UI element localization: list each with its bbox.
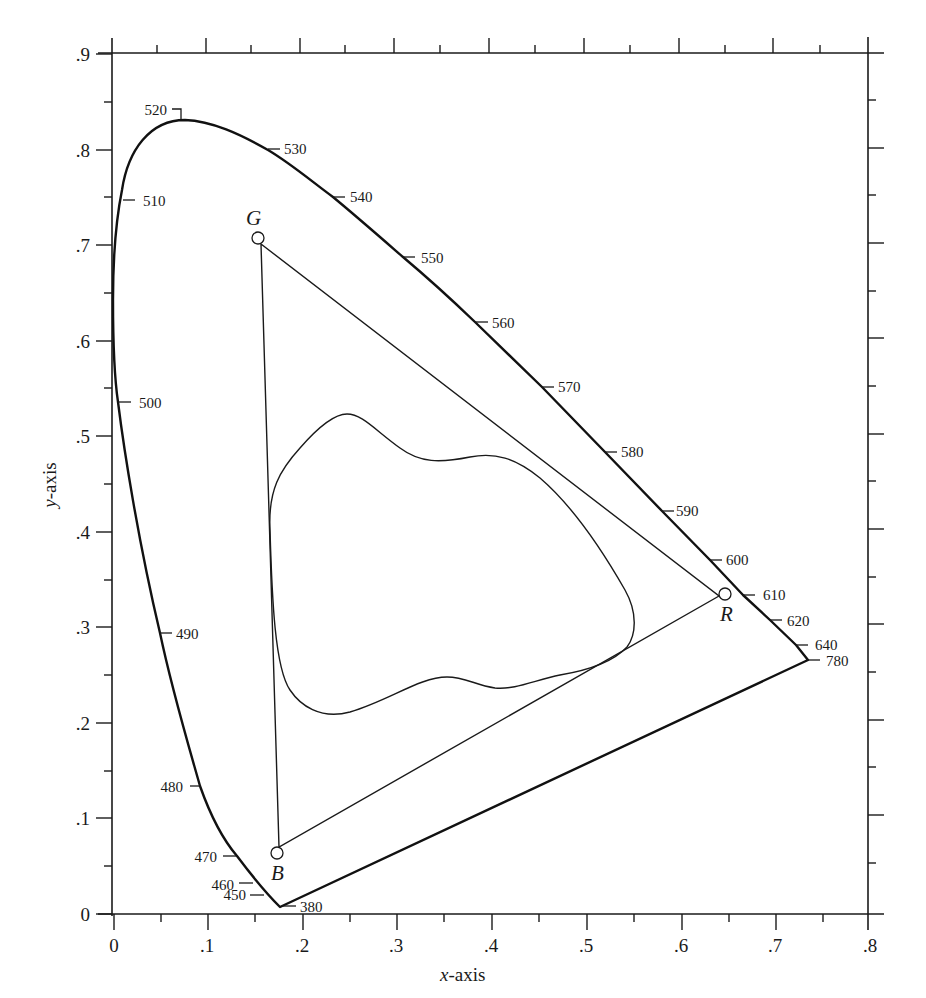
wavelength-markers: 380 450 460 470 480 490 500 510 520 530 …	[118, 102, 849, 915]
wavelength-label: 470	[195, 849, 218, 865]
chromaticity-diagram: 0 .1 .2 .3 .4 .5 .6 .7 .8 0 .1 .2 .3 .4 …	[0, 0, 926, 998]
y-tick-label: 0	[81, 904, 91, 925]
wavelength-label: 590	[676, 503, 699, 519]
x-tick-label: 0	[109, 935, 119, 956]
y-axis-ticks	[96, 54, 112, 914]
y-tick-label: .6	[76, 331, 90, 352]
wavelength-label: 550	[421, 250, 444, 266]
wavelength-label: 620	[787, 613, 810, 629]
wavelength-label: 570	[558, 379, 581, 395]
green-primary-marker	[252, 232, 264, 244]
wavelength-label: 580	[621, 444, 644, 460]
x-tick-labels: 0 .1 .2 .3 .4 .5 .6 .7 .8	[109, 935, 877, 956]
wavelength-label: 520	[145, 102, 168, 118]
x-tick-label: .5	[579, 935, 593, 956]
green-primary-label: G	[246, 206, 261, 230]
y-tick-label: .7	[76, 235, 90, 256]
x-tick-label: .4	[484, 935, 499, 956]
wavelength-label: 500	[139, 395, 162, 411]
y-tick-label: .8	[76, 140, 90, 161]
red-primary-label: R	[719, 602, 733, 626]
x-tick-label: .2	[295, 935, 309, 956]
vertex-b: B	[271, 847, 284, 885]
rgb-gamut-triangle	[261, 244, 719, 847]
x-tick-label: .8	[863, 935, 877, 956]
blue-primary-marker	[271, 847, 283, 859]
x-tick-label: .6	[674, 935, 688, 956]
wavelength-label: 600	[726, 552, 749, 568]
y-axis-title: y-axis	[39, 462, 60, 509]
spectral-locus	[113, 120, 808, 907]
y-tick-label: .2	[76, 713, 90, 734]
wavelength-label: 540	[350, 189, 373, 205]
wavelength-label: 530	[284, 141, 307, 157]
wavelength-label: 610	[763, 587, 786, 603]
vertex-r: R	[719, 588, 733, 626]
top-axis-ticks	[157, 38, 820, 53]
wavelength-label: 780	[826, 653, 849, 669]
x-tick-label: .1	[200, 935, 214, 956]
x-axis-title: x-axis	[439, 964, 485, 985]
x-tick-label: .3	[389, 935, 403, 956]
y-tick-label: .1	[76, 808, 90, 829]
y-tick-label: .9	[76, 44, 90, 65]
x-axis-ticks	[114, 914, 823, 930]
y-tick-labels: 0 .1 .2 .3 .4 .5 .6 .7 .8 .9	[76, 44, 91, 925]
wavelength-label: 560	[492, 315, 515, 331]
blue-primary-label: B	[271, 861, 284, 885]
y-tick-label: .5	[76, 426, 90, 447]
y-tick-label: .3	[76, 617, 90, 638]
wavelength-label: 640	[815, 637, 838, 653]
wavelength-label: 490	[176, 626, 199, 642]
wavelength-label: 380	[300, 899, 323, 915]
inner-gamut-curve	[270, 414, 634, 714]
y-tick-label: .4	[76, 522, 91, 543]
right-axis-ticks	[868, 100, 884, 863]
wavelength-label: 460	[212, 877, 235, 893]
wavelength-label: 510	[143, 193, 166, 209]
x-tick-label: .7	[768, 935, 782, 956]
red-primary-marker	[719, 588, 731, 600]
plot-frame	[98, 37, 884, 930]
wavelength-label: 480	[161, 779, 184, 795]
vertex-g: G	[246, 206, 264, 244]
